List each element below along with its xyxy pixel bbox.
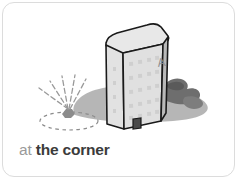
building-door [133,118,141,129]
caption-main: the corner [36,141,110,159]
caption: at the corner [19,137,219,163]
building-corner-illustration: A [3,5,234,135]
building-front-face [106,45,124,129]
caption-prefix: at [19,141,32,159]
flashcard: A [2,2,235,177]
